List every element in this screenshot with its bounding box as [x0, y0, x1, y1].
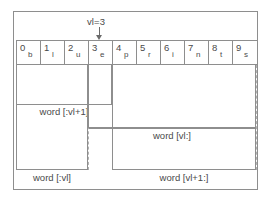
cell-char: b — [28, 50, 32, 60]
cell-index: 8 — [212, 42, 217, 53]
cell-index: 1 — [44, 42, 49, 53]
cell-index: 5 — [140, 42, 145, 53]
vl-marker-label: vl=3 — [74, 16, 118, 27]
cell-index: 3 — [92, 42, 97, 53]
cell-char: i — [172, 50, 174, 60]
slice-label-head-exclusive: word [:vl] — [16, 172, 88, 184]
guide-line-index-10 — [256, 65, 257, 170]
cell-index: 7 — [188, 42, 193, 53]
slice-box-head-exclusive — [16, 65, 88, 170]
slice-diagram: vl=3 0b1l2u3e4p5r6i7n8t9s word [:vl+1] w… — [0, 0, 271, 202]
cell-char: p — [124, 50, 128, 60]
cell-index: 2 — [68, 42, 73, 53]
string-cell: 9s — [233, 41, 257, 64]
string-cell: 2u — [65, 41, 89, 64]
string-cell: 7n — [185, 41, 209, 64]
cell-index: 0 — [20, 42, 25, 53]
cell-char: e — [100, 50, 104, 60]
slice-box-tail-exclusive — [112, 65, 256, 170]
string-cell: 8t — [209, 41, 233, 64]
cell-char: t — [220, 50, 222, 60]
cell-index: 4 — [116, 42, 121, 53]
string-cell: 0b — [17, 41, 41, 64]
string-cell: 4p — [113, 41, 137, 64]
arrow-down-icon — [95, 27, 104, 40]
string-cell: 6i — [161, 41, 185, 64]
cell-char: u — [76, 50, 80, 60]
cell-char: l — [52, 50, 54, 60]
cell-index: 6 — [164, 42, 169, 53]
string-cell: 5r — [137, 41, 161, 64]
cell-char: r — [148, 50, 151, 60]
string-cell-strip: 0b1l2u3e4p5r6i7n8t9s — [16, 40, 258, 65]
cell-char: n — [196, 50, 200, 60]
string-cell: 1l — [41, 41, 65, 64]
cell-index: 9 — [236, 42, 241, 53]
string-cell: 3e — [89, 41, 113, 64]
cell-char: s — [244, 50, 248, 60]
slice-label-tail-exclusive: word [vl+1:] — [112, 172, 256, 184]
